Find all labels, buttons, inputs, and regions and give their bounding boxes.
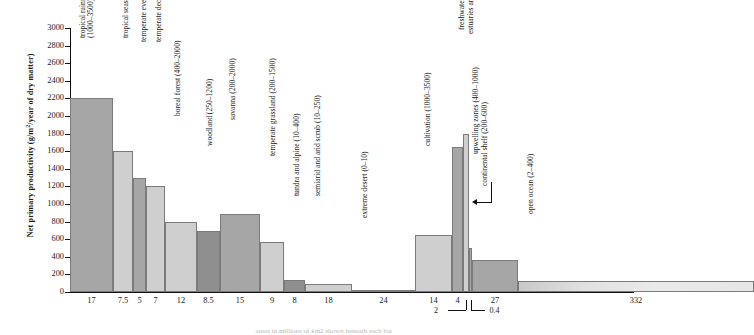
x-tick-label-savanna: 15 — [236, 296, 244, 305]
bar-cultivation[interactable] — [415, 235, 452, 292]
bar-woodland[interactable] — [197, 231, 220, 292]
x-tick-label-boreal-forest: 12 — [177, 296, 185, 305]
plot-area: 3000280026002400220020001800160014001200… — [70, 28, 634, 292]
y-tick-label: 1200 — [30, 182, 64, 190]
bar-label-tropical-seasonal-forest: tropical seasonal forest (1000–2500) — [122, 0, 130, 38]
bar-freshwater-ecosystems[interactable] — [452, 147, 463, 292]
y-axis-title-superscript: 2 — [25, 125, 31, 128]
upwelling-arrow-stem — [491, 182, 492, 203]
y-tick-mark — [65, 292, 70, 293]
y-tick-label: 2400 — [30, 77, 64, 85]
y-tick-mark — [65, 81, 70, 82]
x-tick-label-leader: 0.4 — [490, 306, 500, 315]
bar-label-tundra-and-alpine: tundra and alpine (10–400) — [293, 114, 301, 196]
y-tick-label: 2000 — [30, 112, 64, 120]
bar-temperate-deciduous-forest[interactable] — [146, 186, 165, 292]
upwelling-arrow-head — [472, 199, 477, 205]
bar-label-woodland: woodland (250–1200) — [206, 79, 214, 146]
y-tick-label: 2200 — [30, 94, 64, 102]
bar-label-continental-shelf: continental shelf (200–600) — [481, 102, 489, 186]
leader-vertical — [466, 300, 467, 310]
bar-label-upwelling-zones: upwelling zones (400–1000) — [472, 67, 480, 154]
y-tick-label: 200 — [30, 270, 64, 278]
bar-label-tropical-rainforest: tropical rainforest(1000–3500) — [79, 0, 95, 38]
x-tick-label-semiarid-and-arid-scrub: 18 — [324, 296, 332, 305]
bar-semiarid-and-arid-scrub[interactable] — [305, 284, 352, 292]
y-axis-title: Net primary productivity (g/m2/year of d… — [25, 20, 36, 270]
bar-label-boreal-forest: boreal forest (400–2000) — [174, 41, 182, 117]
upwelling-arrow-line — [475, 202, 491, 203]
bar-label-temperate-deciduous-forest: temperate deciduous forest (600–2500) — [155, 0, 163, 42]
x-tick-label-temperate-deciduous-forest: 7 — [153, 296, 157, 305]
bar-extreme-desert[interactable] — [352, 290, 415, 292]
x-tick-label-tropical-rainforest: 17 — [87, 296, 95, 305]
y-tick-label: 1600 — [30, 147, 64, 155]
bar-label-estuaries-and-reefs: estuaries and reefs (200–4000) — [467, 0, 475, 34]
x-tick-label-tropical-seasonal-forest: 7.5 — [118, 296, 128, 305]
bar-label-semiarid-and-arid-scrub: semiarid and arid scrub (10–250) — [314, 95, 322, 196]
bar-continental-shelf[interactable] — [472, 260, 518, 292]
y-tick-label: 2800 — [30, 42, 64, 50]
bar-label-cultivation: cultivation (1000–3500) — [424, 72, 432, 146]
y-tick-label: 1800 — [30, 130, 64, 138]
bar-label-freshwater-ecosystems: freshwater ecosystems (100–6000) — [458, 0, 466, 30]
bar-boreal-forest[interactable] — [165, 222, 197, 292]
y-tick-label: 1000 — [30, 200, 64, 208]
leader-horizontal — [471, 310, 485, 311]
x-tick-label-temperate-evergreen-forest: 5 — [137, 296, 141, 305]
y-tick-label: 1400 — [30, 165, 64, 173]
bar-label-extreme-desert: extreme desert (0–10) — [361, 151, 369, 218]
x-tick-label-open-ocean: 332 — [630, 296, 643, 305]
x-tick-label-freshwater-ecosystems: 4 — [455, 296, 459, 305]
x-axis-line — [70, 292, 634, 293]
bar-label-temperate-evergreen-forest: temperate evergreen forest (600–2500) — [140, 0, 148, 42]
bar-savanna[interactable] — [220, 214, 260, 292]
y-tick-mark — [65, 46, 70, 47]
bar-tropical-seasonal-forest[interactable] — [113, 151, 133, 292]
bar-temperate-evergreen-forest[interactable] — [133, 178, 146, 292]
y-tick-label: 400 — [30, 253, 64, 261]
leader-horizontal — [448, 310, 466, 311]
bar-label-open-ocean: open ocean (2–400) — [527, 154, 535, 214]
x-tick-label-extreme-desert: 24 — [379, 296, 387, 305]
y-tick-mark — [65, 63, 70, 64]
x-tick-label-woodland: 8.5 — [203, 296, 213, 305]
x-tick-label-cultivation: 14 — [429, 296, 437, 305]
bar-label-temperate-grassland: temperate grassland (200–1500) — [269, 58, 277, 156]
y-tick-label: 3000 — [30, 24, 64, 32]
bar-tundra-and-alpine[interactable] — [284, 280, 305, 292]
y-tick-label: 600 — [30, 235, 64, 243]
bar-tropical-rainforest[interactable] — [70, 98, 113, 292]
bar-label-savanna: savanna (200–2000) — [229, 58, 237, 120]
bar-open-ocean[interactable] — [518, 281, 754, 292]
x-tick-label-tundra-and-alpine: 8 — [292, 296, 296, 305]
y-tick-label: 2600 — [30, 59, 64, 67]
x-tick-label-continental-shelf: 27 — [491, 296, 499, 305]
bar-temperate-grassland[interactable] — [260, 242, 284, 292]
y-tick-label: 0 — [30, 288, 64, 296]
x-tick-label-leader: 2 — [434, 306, 438, 315]
x-tick-label-temperate-grassland: 9 — [270, 296, 274, 305]
y-tick-label: 800 — [30, 218, 64, 226]
leader-vertical — [471, 300, 472, 310]
figure-caption: areas in millions of km2 shown beneath e… — [0, 327, 648, 335]
y-tick-mark — [65, 28, 70, 29]
